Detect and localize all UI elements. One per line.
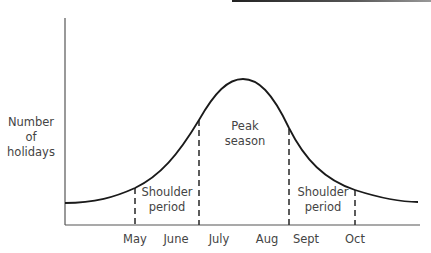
y-axis-label-line2: of (0, 130, 62, 145)
peak-line2: season (215, 134, 275, 149)
shoulder-right-line1: Shoulder (293, 185, 353, 200)
x-tick-oct: Oct (335, 233, 375, 246)
y-axis-label: Number of holidays (0, 115, 62, 160)
x-tick-june: June (156, 233, 196, 246)
x-tick-sept: Sept (286, 233, 326, 246)
peak-season-label: Peak season (215, 119, 275, 149)
shoulder-left-line2: period (137, 200, 197, 215)
shoulder-period-right-label: Shoulder period (293, 185, 353, 215)
x-tick-july: July (199, 233, 239, 246)
x-tick-may: May (115, 233, 155, 246)
shoulder-period-left-label: Shoulder period (137, 185, 197, 215)
peak-line1: Peak (215, 119, 275, 134)
y-axis-label-line1: Number (0, 115, 62, 130)
shoulder-left-line1: Shoulder (137, 185, 197, 200)
shoulder-right-line2: period (293, 200, 353, 215)
y-axis-label-line3: holidays (0, 145, 62, 160)
x-tick-aug: Aug (247, 233, 287, 246)
